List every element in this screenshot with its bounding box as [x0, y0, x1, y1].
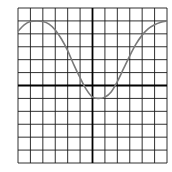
function-graph: [0, 0, 172, 172]
